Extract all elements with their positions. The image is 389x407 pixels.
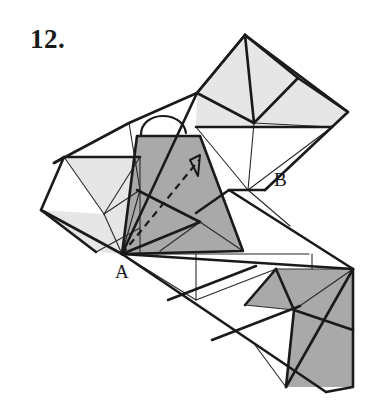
vertex-label-a: A xyxy=(115,262,129,281)
crease-pyr-diag-2 xyxy=(248,127,332,190)
crease-pyr-down xyxy=(248,123,254,190)
edge-b-diagonal xyxy=(229,190,353,269)
edge-main-diagonal xyxy=(122,254,353,269)
geometry-figure: 12. xyxy=(0,0,389,407)
edge-lower-band-1 xyxy=(168,266,256,300)
crease-br-9 xyxy=(255,345,286,387)
vertex-label-b: B xyxy=(274,170,287,189)
crease-band-5 xyxy=(248,190,290,226)
net-diagram-svg xyxy=(0,0,389,407)
